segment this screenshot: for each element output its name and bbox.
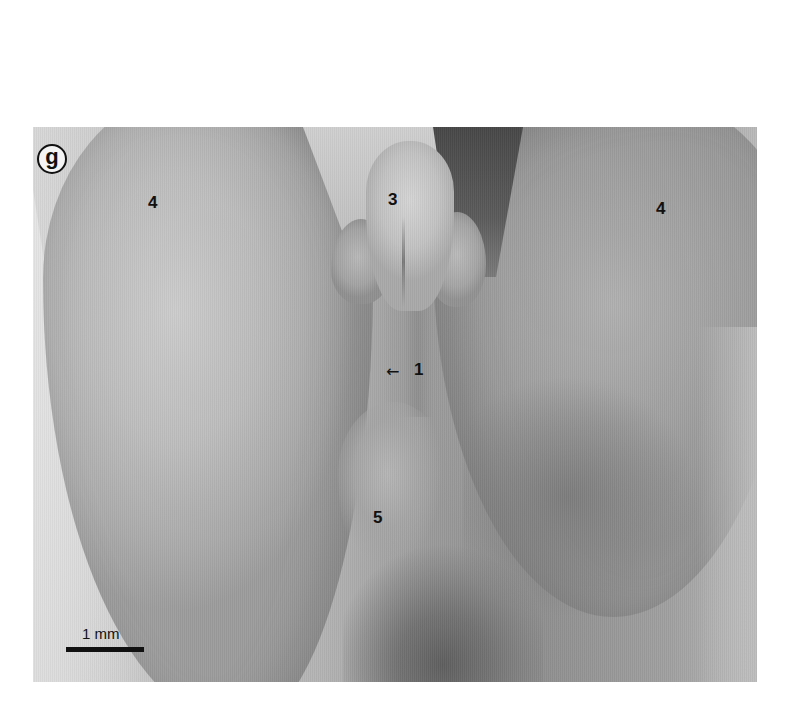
lower-structure-region <box>338 402 448 582</box>
film-grain <box>33 127 757 682</box>
left-arrow-icon: ← <box>386 364 399 380</box>
label-petal-right: 4 <box>656 200 665 217</box>
right-petal-region <box>433 127 757 617</box>
right-shadow-region <box>463 367 723 627</box>
panel-label-badge: g <box>37 144 67 174</box>
scale-bar-label: 1 mm <box>82 625 120 642</box>
right-edge-light <box>697 327 757 682</box>
left-petal-region <box>43 127 373 682</box>
scale-bar <box>66 647 144 652</box>
bright-left-margin <box>33 187 213 682</box>
center-structure-region <box>366 141 454 311</box>
photo-background <box>33 127 757 682</box>
label-petal-left: 4 <box>148 194 157 211</box>
center-left-lobe <box>331 219 391 304</box>
center-right-lobe <box>428 212 486 307</box>
dark-gap-region <box>433 127 523 277</box>
label-pointer-target: 1 <box>414 361 423 378</box>
central-stalk <box>383 297 433 417</box>
label-center-structure: 3 <box>388 191 397 208</box>
micrograph-photo <box>33 127 757 682</box>
bottom-shadow-region <box>343 507 543 682</box>
center-groove <box>402 217 405 307</box>
label-lower-structure: 5 <box>373 509 382 526</box>
top-light-region <box>303 127 453 247</box>
